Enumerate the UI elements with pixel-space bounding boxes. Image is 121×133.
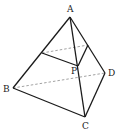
tetrahedron-diagram: A B C D P xyxy=(0,0,121,133)
label-d: D xyxy=(108,68,115,78)
edge-ab xyxy=(13,17,70,88)
label-p: P xyxy=(71,66,77,76)
edge-cd xyxy=(85,73,105,117)
edge-bc xyxy=(13,88,85,117)
edge-ep xyxy=(42,53,78,66)
edge-ef-hidden xyxy=(42,45,88,53)
edge-bd-hidden xyxy=(13,73,105,88)
label-b: B xyxy=(3,84,10,94)
label-c: C xyxy=(82,121,89,131)
label-a: A xyxy=(66,4,74,14)
edge-pf xyxy=(78,45,88,66)
